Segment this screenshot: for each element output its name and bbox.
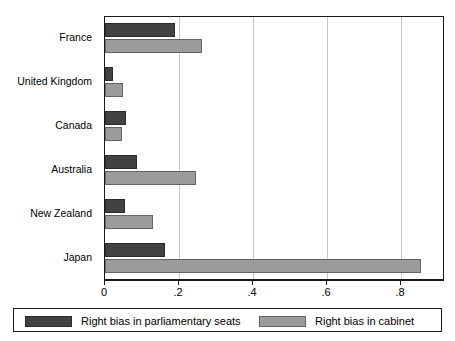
bar-seats [105,199,125,213]
x-tick-mark [252,280,253,285]
x-tick-label: .6 [311,286,341,299]
bar-cabinet [105,215,153,229]
bar-chart: France United Kingdom Canada Australia N… [0,0,455,341]
bar-cabinet [105,127,122,141]
legend-item-cabinet: Right bias in cabinet [259,313,414,329]
bar-group [105,111,443,143]
legend-swatch-seats [25,316,72,327]
bar-group [105,155,443,187]
x-axis-line [104,280,444,281]
bar-cabinet [105,83,123,97]
x-tick-label: .2 [163,286,193,299]
x-tick-mark [104,280,105,285]
bar-cabinet [105,259,421,273]
category-label-united-kingdom: United Kingdom [0,76,92,87]
legend-item-seats: Right bias in parliamentary seats [25,313,241,329]
bar-group [105,199,443,231]
plot-area [104,16,444,280]
legend-label-cabinet: Right bias in cabinet [315,315,414,328]
category-label-france: France [0,32,92,43]
bar-group [105,67,443,99]
bar-cabinet [105,39,202,53]
category-label-canada: Canada [0,120,92,131]
category-label-japan: Japan [0,252,92,263]
x-tick-mark [400,280,401,285]
x-tick-mark [178,280,179,285]
x-tick-label: .8 [385,286,415,299]
category-axis-labels: France United Kingdom Canada Australia N… [0,16,98,280]
category-label-australia: Australia [0,164,92,175]
category-label-new-zealand: New Zealand [0,208,92,219]
bar-seats [105,111,126,125]
x-tick-label: .4 [237,286,267,299]
bar-seats [105,67,113,81]
x-tick-label: 0 [89,286,119,299]
legend-swatch-cabinet [259,316,306,327]
legend: Right bias in parliamentary seats Right … [13,308,442,332]
bar-group [105,243,443,275]
bar-cabinet [105,171,196,185]
bar-seats [105,243,165,257]
bar-group [105,23,443,55]
bar-seats [105,23,175,37]
x-tick-mark [326,280,327,285]
legend-label-seats: Right bias in parliamentary seats [81,315,241,328]
bars-layer [105,17,443,279]
bar-seats [105,155,137,169]
